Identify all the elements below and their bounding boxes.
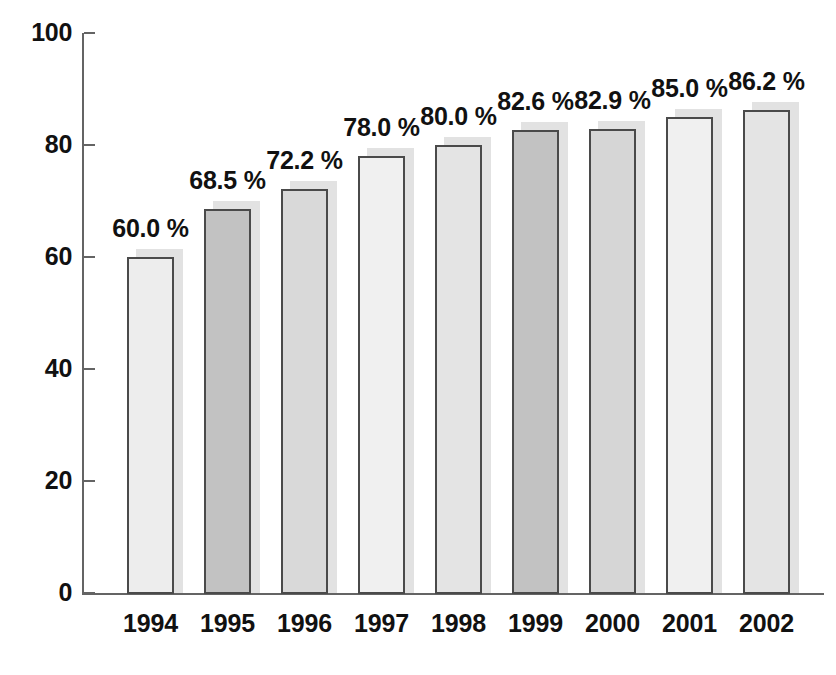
bar[interactable] [127, 257, 174, 594]
y-axis-tick-label: 20 [0, 468, 72, 493]
bar[interactable] [512, 130, 559, 594]
y-axis-tick [84, 368, 95, 370]
x-axis-category-label: 2002 [697, 611, 836, 636]
y-axis-tick [84, 144, 95, 146]
bar[interactable] [281, 189, 328, 594]
bar-value-label: 60.0 % [81, 216, 221, 241]
y-axis-line [82, 33, 84, 595]
bar-value-label: 72.2 % [235, 148, 375, 173]
y-axis-tick [84, 32, 95, 34]
bar[interactable] [204, 209, 251, 594]
bar[interactable] [435, 145, 482, 594]
y-axis-tick-label: 40 [0, 356, 72, 381]
bar-value-label: 86.2 % [697, 69, 836, 94]
y-axis-tick [84, 256, 95, 258]
bar[interactable] [666, 117, 713, 594]
y-axis-tick-label: 0 [0, 580, 72, 605]
y-axis-tick-label: 80 [0, 132, 72, 157]
y-axis-tick [84, 592, 95, 594]
bar-chart-figure: 020406080100 60.0 %199468.5 %199572.2 %1… [0, 0, 836, 675]
y-axis-tick-label: 100 [0, 20, 72, 45]
y-axis-tick [84, 480, 95, 482]
bar[interactable] [589, 129, 636, 594]
bar[interactable] [743, 110, 790, 594]
bar[interactable] [358, 156, 405, 594]
y-axis-tick-label: 60 [0, 244, 72, 269]
